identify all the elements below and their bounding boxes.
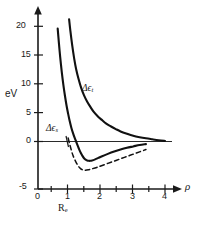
y-tick-label-0: 0 xyxy=(26,136,31,145)
y-tick-label-minus5: -5 xyxy=(19,182,26,191)
annotation-equilibrium-base: R xyxy=(58,202,65,213)
x-tick-label-3: 3 xyxy=(130,192,135,201)
annotation-delta-epsilon-s-base: Δϵ xyxy=(46,123,55,133)
annotation-delta-epsilon-s: Δϵs xyxy=(46,124,58,134)
y-tick-label-5: 5 xyxy=(26,108,31,117)
x-axis-arrow-icon xyxy=(173,185,182,193)
y-tick-label-20: 20 xyxy=(16,21,25,30)
annotation-equilibrium-subscript: e xyxy=(65,206,68,213)
annotation-delta-epsilon-t-base: Δϵ xyxy=(82,83,91,93)
y-tick-label-10: 10 xyxy=(21,79,30,88)
figure-panel: 20 15 10 5 0 -5 eV ρ 0 1 2 3 4 Δϵt Δϵs R… xyxy=(0,0,197,227)
annotation-delta-epsilon-s-subscript: s xyxy=(55,126,58,133)
x-tick-label-0: 0 xyxy=(35,192,40,201)
annotation-delta-epsilon-t: Δϵt xyxy=(82,84,93,94)
annotation-equilibrium-distance: Re xyxy=(58,203,68,214)
y-tick-label-15: 15 xyxy=(21,50,30,59)
annotation-delta-epsilon-t-subscript: t xyxy=(91,86,93,93)
x-tick-label-1: 1 xyxy=(65,192,70,201)
y-axis-title: eV xyxy=(5,89,17,99)
curve-delta-epsilon-t xyxy=(69,19,165,141)
x-axis-title: ρ xyxy=(185,181,190,192)
x-tick-label-2: 2 xyxy=(97,192,102,201)
y-axis-arrow-icon xyxy=(34,6,42,15)
x-tick-label-4: 4 xyxy=(162,192,167,201)
